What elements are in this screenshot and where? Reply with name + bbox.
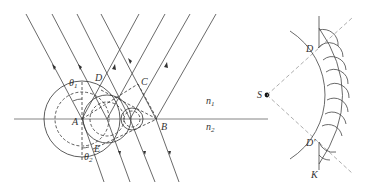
reflected-wavefront [319, 28, 343, 164]
guide-line-upper [267, 18, 352, 95]
right-panel-mirror: S D D' K [257, 16, 352, 180]
label-B: B [161, 121, 167, 132]
label-D: D [94, 72, 103, 83]
wavelets [318, 29, 349, 160]
label-n1: n1 [206, 95, 215, 108]
label-A: A [71, 116, 79, 127]
angle-theta1 [73, 99, 82, 101]
left-panel-refraction: A B C D E θ1 θ2 n1 n2 [14, 14, 268, 182]
label-theta2: θ2 [84, 151, 93, 164]
label-D-prime: D' [305, 137, 316, 148]
arrow-icon [128, 58, 132, 64]
label-n2: n2 [206, 121, 215, 134]
label-theta1: θ1 [69, 77, 77, 90]
label-E: E [93, 143, 100, 154]
arrow-icon [112, 64, 116, 70]
huygens-diagram: A B C D E θ1 θ2 n1 n2 [0, 0, 373, 193]
label-C: C [141, 76, 148, 87]
arrow-icon [164, 62, 168, 68]
angle-theta2 [82, 147, 89, 148]
reflected-rays [82, 14, 216, 119]
guide-line-lower [267, 95, 352, 173]
label-D: D [305, 43, 314, 54]
label-S: S [257, 89, 262, 100]
arrow-icon [78, 64, 82, 70]
label-K: K [310, 169, 319, 180]
